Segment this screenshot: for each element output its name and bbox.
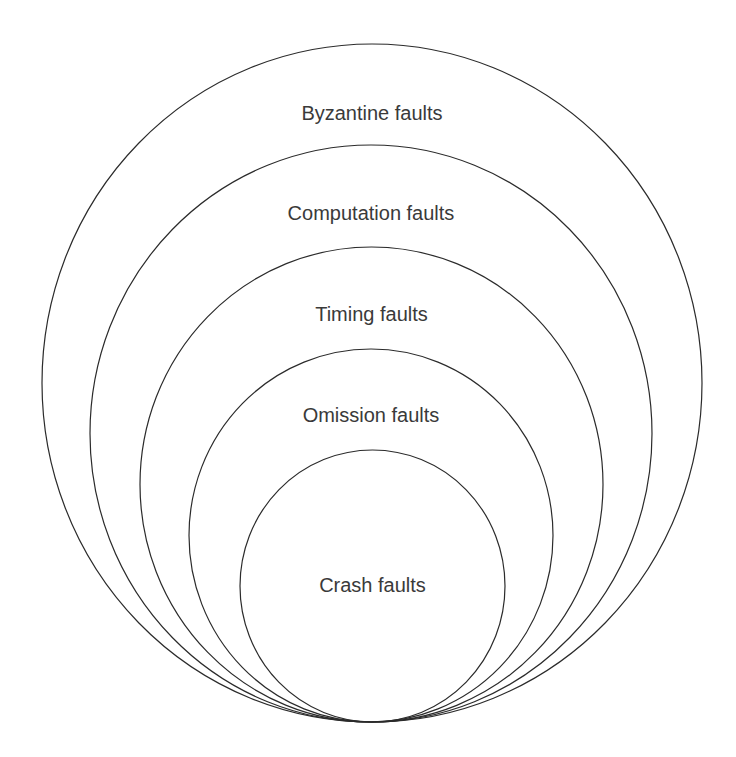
label-computation-faults: Computation faults: [288, 202, 455, 224]
layer-computation: Computation faults: [90, 145, 652, 722]
layer-byzantine: Byzantine faults: [42, 44, 702, 722]
fault-hierarchy-diagram: Byzantine faults Computation faults Timi…: [0, 0, 736, 757]
label-crash-faults: Crash faults: [319, 574, 426, 596]
label-timing-faults: Timing faults: [315, 303, 428, 325]
label-byzantine-faults: Byzantine faults: [301, 102, 442, 124]
ellipse-computation-faults: [90, 145, 652, 722]
layer-omission: Omission faults: [189, 349, 553, 722]
layer-timing: Timing faults: [140, 247, 603, 722]
ellipse-byzantine-faults: [42, 44, 702, 722]
layer-crash: Crash faults: [240, 450, 505, 722]
label-omission-faults: Omission faults: [303, 404, 440, 426]
